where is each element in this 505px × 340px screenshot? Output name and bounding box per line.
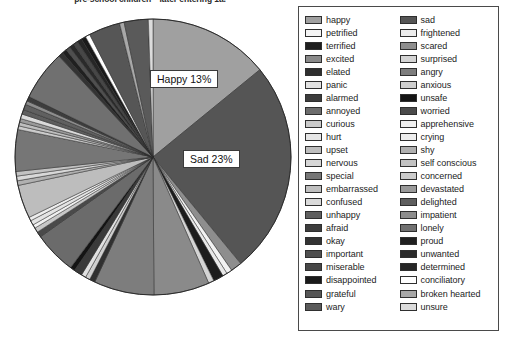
- legend-item-label: upset: [326, 145, 348, 155]
- legend-item[interactable]: unwanted: [400, 248, 495, 261]
- legend-item[interactable]: petrified: [305, 26, 400, 39]
- legend-column-left: happypetrifiedterrifiedexcitedelatedpani…: [305, 13, 400, 326]
- legend-swatch-icon: [400, 159, 417, 167]
- legend-swatch-icon: [305, 211, 322, 219]
- legend-item[interactable]: sad: [400, 13, 495, 26]
- legend-item[interactable]: important: [305, 248, 400, 261]
- legend-item-label: panic: [326, 80, 347, 90]
- legend-item[interactable]: broken hearted: [400, 287, 495, 300]
- legend-swatch-icon: [400, 16, 417, 24]
- legend-item[interactable]: unhappy: [305, 209, 400, 222]
- pie-slice-label-sad: Sad 23%: [183, 150, 240, 168]
- legend-item[interactable]: elated: [305, 65, 400, 78]
- legend-item-label: broken hearted: [421, 289, 481, 299]
- legend-item[interactable]: anxious: [400, 78, 495, 91]
- legend-item-label: terrified: [326, 41, 356, 51]
- pie-chart-svg: [14, 18, 292, 296]
- legend-item-label: special: [326, 171, 354, 181]
- pie-chart-area: Happy 13% Sad 23%: [0, 8, 296, 338]
- legend-item-label: elated: [326, 67, 350, 77]
- legend-item-label: determined: [421, 262, 466, 272]
- pie-slice-label-happy: Happy 13%: [150, 70, 218, 88]
- legend-item-label: shy: [421, 145, 435, 155]
- legend-swatch-icon: [400, 81, 417, 89]
- legend-item[interactable]: unsafe: [400, 91, 495, 104]
- legend-item-label: conciliatory: [421, 275, 465, 285]
- legend-item[interactable]: devastated: [400, 183, 495, 196]
- legend-item[interactable]: confused: [305, 196, 400, 209]
- legend-item[interactable]: frightened: [400, 26, 495, 39]
- legend-item-label: wary: [326, 302, 345, 312]
- legend-item[interactable]: disappointed: [305, 274, 400, 287]
- legend-item[interactable]: panic: [305, 78, 400, 91]
- legend-swatch-icon: [305, 263, 322, 271]
- legend-item[interactable]: crying: [400, 130, 495, 143]
- legend-item[interactable]: self conscious: [400, 157, 495, 170]
- legend-item[interactable]: annoyed: [305, 104, 400, 117]
- legend-item-label: surprised: [421, 54, 458, 64]
- legend-item[interactable]: miserable: [305, 261, 400, 274]
- legend-item[interactable]: conciliatory: [400, 274, 495, 287]
- legend-swatch-icon: [400, 146, 417, 154]
- legend-item[interactable]: excited: [305, 52, 400, 65]
- legend-item[interactable]: impatient: [400, 209, 495, 222]
- legend-item[interactable]: proud: [400, 235, 495, 248]
- legend-item-label: unhappy: [326, 210, 360, 220]
- legend-item[interactable]: hurt: [305, 130, 400, 143]
- legend-item[interactable]: scared: [400, 39, 495, 52]
- legend-item[interactable]: angry: [400, 65, 495, 78]
- legend-swatch-icon: [400, 211, 417, 219]
- legend-swatch-icon: [400, 120, 417, 128]
- legend-item-label: apprehensive: [421, 119, 474, 129]
- legend-item[interactable]: concerned: [400, 170, 495, 183]
- pie-chart: [14, 18, 292, 296]
- legend-swatch-icon: [400, 42, 417, 50]
- legend-item[interactable]: okay: [305, 235, 400, 248]
- legend-item[interactable]: embarrassed: [305, 183, 400, 196]
- legend-item[interactable]: curious: [305, 117, 400, 130]
- legend-item-label: miserable: [326, 262, 365, 272]
- legend-item-label: angry: [421, 67, 443, 77]
- legend-item[interactable]: terrified: [305, 39, 400, 52]
- legend-item[interactable]: worried: [400, 104, 495, 117]
- legend-swatch-icon: [400, 198, 417, 206]
- legend-item-label: petrified: [326, 28, 358, 38]
- legend-swatch-icon: [305, 159, 322, 167]
- legend-swatch-icon: [400, 276, 417, 284]
- legend-item[interactable]: happy: [305, 13, 400, 26]
- legend-item-label: alarmed: [326, 93, 358, 103]
- legend-item-label: concerned: [421, 171, 463, 181]
- legend-item-label: embarrassed: [326, 184, 378, 194]
- legend-item[interactable]: surprised: [400, 52, 495, 65]
- legend-item-label: okay: [326, 236, 345, 246]
- legend-item[interactable]: nervous: [305, 157, 400, 170]
- legend-item[interactable]: wary: [305, 300, 400, 313]
- legend-swatch-icon: [400, 29, 417, 37]
- legend-item[interactable]: special: [305, 170, 400, 183]
- legend-item[interactable]: upset: [305, 143, 400, 156]
- legend-item[interactable]: afraid: [305, 222, 400, 235]
- legend-swatch-icon: [305, 107, 322, 115]
- legend-swatch-icon: [400, 55, 417, 63]
- legend-swatch-icon: [400, 303, 417, 311]
- legend-item[interactable]: shy: [400, 143, 495, 156]
- legend-item-label: impatient: [421, 210, 457, 220]
- legend-item[interactable]: apprehensive: [400, 117, 495, 130]
- legend-item-label: delighted: [421, 197, 457, 207]
- legend-item-label: afraid: [326, 223, 348, 233]
- legend-swatch-icon: [400, 68, 417, 76]
- legend-item[interactable]: lonely: [400, 222, 495, 235]
- legend-item[interactable]: delighted: [400, 196, 495, 209]
- legend-item-label: worried: [421, 106, 450, 116]
- legend-swatch-icon: [305, 237, 322, 245]
- legend-item-label: disappointed: [326, 275, 376, 285]
- legend-item[interactable]: alarmed: [305, 91, 400, 104]
- legend-item[interactable]: unsure: [400, 300, 495, 313]
- legend-swatch-icon: [400, 94, 417, 102]
- legend-item-label: annoyed: [326, 106, 360, 116]
- legend-item[interactable]: determined: [400, 261, 495, 274]
- legend-item-label: unsure: [421, 302, 448, 312]
- legend-swatch-icon: [400, 185, 417, 193]
- legend-swatch-icon: [305, 224, 322, 232]
- legend-item[interactable]: grateful: [305, 287, 400, 300]
